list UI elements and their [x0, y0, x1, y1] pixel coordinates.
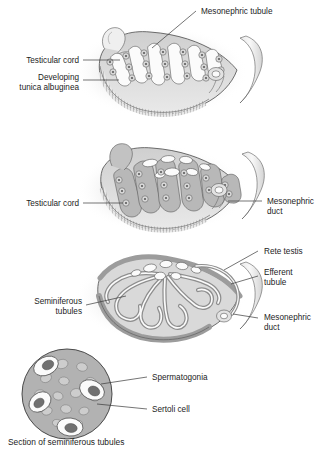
- label-mesonephric-duct-p3-line1: Mesonephric: [264, 313, 311, 322]
- label-mesonephric-duct-p2-line2: duct: [267, 207, 283, 216]
- label-developing-tunica-line2: tunica albuginea: [19, 83, 79, 92]
- panel-3-cut-duct-cylinder: [217, 310, 232, 322]
- label-mesonephric-tubule: Mesonephric tubule: [201, 7, 273, 16]
- label-mesonephric-duct-p3-line2: duct: [264, 323, 280, 332]
- label-seminiferous-tubules-line1: Seminiferous: [34, 297, 82, 306]
- label-spermatogonia: Spermatogonia: [152, 373, 208, 382]
- label-rete-testis: Rete testis: [264, 247, 303, 256]
- label-developing-tunica-line1: Developing: [38, 73, 79, 82]
- figure-caption: Section of seminiferous tubules: [8, 437, 124, 447]
- label-efferent-tubule-line2: tubule: [264, 278, 287, 287]
- label-mesonephric-duct-p2-line1: Mesonephric: [267, 197, 314, 206]
- label-seminiferous-tubules-line2: tubules: [56, 307, 82, 316]
- testis-development-figure: Mesonephric tubule Testicular cord Devel…: [0, 0, 333, 450]
- label-testicular-cord-p1: Testicular cord: [26, 56, 79, 65]
- label-sertoli-cell: Sertoli cell: [152, 405, 190, 414]
- label-efferent-tubule-line1: Efferent: [264, 268, 293, 277]
- label-testicular-cord-p2: Testicular cord: [26, 199, 79, 208]
